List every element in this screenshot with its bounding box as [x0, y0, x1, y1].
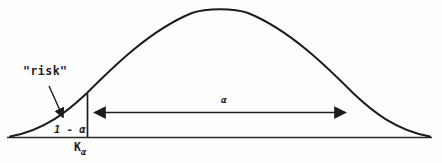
risk-label: "risk"	[23, 66, 68, 78]
critical-value-base: K	[74, 140, 81, 154]
figure-canvas	[0, 0, 442, 163]
risk-annotation-arrow	[49, 86, 63, 117]
tail-area-label: 1 - α	[54, 124, 86, 135]
tail-area-value: 1 - α	[54, 123, 86, 135]
bell-curve	[10, 9, 430, 136]
critical-value-subscript: α	[81, 147, 86, 157]
distribution-figure: "risk" 1 - α Kα α	[0, 0, 442, 163]
critical-value-label: Kα	[74, 142, 86, 157]
alpha-span-label: α	[221, 95, 227, 105]
